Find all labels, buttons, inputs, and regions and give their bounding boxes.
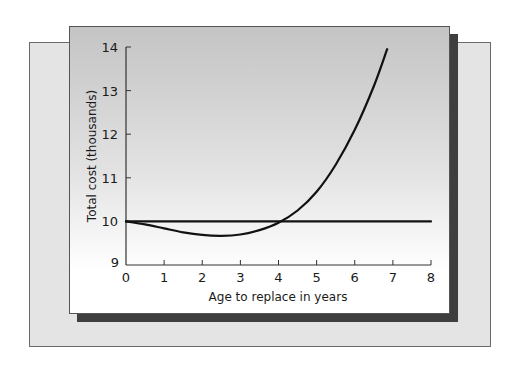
y-tick-label: 14 bbox=[101, 40, 118, 55]
line-chart: 91011121314 012345678 Total cost (thousa… bbox=[0, 0, 513, 366]
x-tick-label: 3 bbox=[236, 270, 244, 285]
x-tick-label: 1 bbox=[160, 270, 168, 285]
data-series bbox=[126, 49, 431, 236]
x-tick-label: 8 bbox=[427, 270, 435, 285]
x-tick-label: 6 bbox=[351, 270, 359, 285]
cost-curve bbox=[126, 49, 387, 236]
x-tick-label: 2 bbox=[198, 270, 206, 285]
y-tick-label: 10 bbox=[101, 214, 118, 229]
y-axis-title: Total cost (thousands) bbox=[85, 90, 99, 223]
y-tick-label: 11 bbox=[101, 171, 118, 186]
x-tick-label: 0 bbox=[122, 270, 130, 285]
x-ticks: 012345678 bbox=[122, 260, 435, 285]
x-tick-label: 4 bbox=[274, 270, 282, 285]
x-axis-title: Age to replace in years bbox=[209, 290, 348, 304]
x-tick-label: 5 bbox=[312, 270, 320, 285]
y-tick-label: 12 bbox=[101, 127, 118, 142]
y-tick-label: 9 bbox=[111, 255, 119, 270]
y-tick-label: 13 bbox=[101, 84, 118, 99]
x-tick-label: 7 bbox=[389, 270, 397, 285]
